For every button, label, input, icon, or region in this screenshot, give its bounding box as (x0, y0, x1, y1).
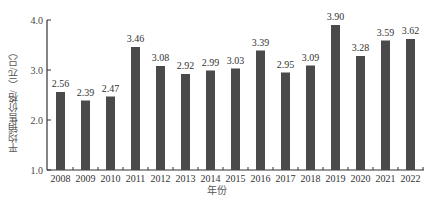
bar-2019 (331, 25, 340, 170)
bar-value-label: 3.59 (377, 27, 395, 38)
bar-value-label: 2.39 (77, 87, 95, 98)
y-tick-label: 4.0 (31, 15, 44, 26)
chart-canvas: 1.02.03.04.02.5620082.3920092.4720103.46… (0, 0, 434, 204)
bar-2011 (131, 47, 140, 170)
bar-value-label: 3.09 (302, 52, 320, 63)
bar-value-label: 3.39 (252, 37, 270, 48)
bar-2010 (106, 97, 115, 171)
bar-value-label: 2.92 (177, 60, 195, 71)
bar-2021 (381, 41, 390, 171)
bar-chart: 1.02.03.04.02.5620082.3920092.4720103.46… (0, 0, 434, 204)
bar-2015 (231, 69, 240, 171)
bar-value-label: 2.99 (202, 57, 220, 68)
x-axis-label: 年份 (0, 182, 434, 197)
y-tick-label: 3.0 (31, 65, 44, 76)
bar-2022 (406, 39, 415, 170)
bar-value-label: 3.46 (127, 33, 145, 44)
y-axis-label: 平均销售价格/（元/只） (6, 40, 20, 160)
bar-2016 (256, 51, 265, 171)
bar-2018 (306, 66, 315, 171)
bar-value-label: 3.03 (227, 55, 245, 66)
bar-2008 (56, 92, 65, 170)
bar-2017 (281, 73, 290, 171)
bar-value-label: 3.90 (327, 11, 345, 22)
y-tick-label: 2.0 (31, 115, 44, 126)
bar-value-label: 2.95 (277, 59, 295, 70)
bar-2012 (156, 66, 165, 170)
bar-2014 (206, 71, 215, 171)
bar-2020 (356, 56, 365, 170)
bar-value-label: 2.47 (102, 83, 120, 94)
bar-value-label: 3.08 (152, 52, 170, 63)
bar-2009 (81, 101, 90, 171)
bar-value-label: 2.56 (52, 78, 70, 89)
y-tick-label: 1.0 (31, 165, 44, 176)
bar-value-label: 3.62 (402, 25, 420, 36)
bar-value-label: 3.28 (352, 42, 370, 53)
bar-2013 (181, 74, 190, 170)
